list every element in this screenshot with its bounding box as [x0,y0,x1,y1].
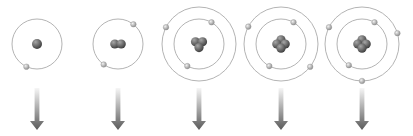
nucleon [194,43,203,52]
nucleon [117,39,126,48]
atom-5 [325,7,400,84]
bohr-model-diagram [0,0,413,136]
electron [307,64,313,70]
electron [246,24,252,30]
arrows-layer [30,88,369,130]
atom-1 [12,19,62,70]
down-arrow-icon [192,88,206,130]
down-arrow-icon [355,88,369,130]
atom-2 [93,19,143,69]
electron [101,62,107,68]
electron [267,63,273,69]
electron [185,63,191,69]
electron [326,24,332,30]
nucleus [110,39,126,48]
electron [346,62,352,68]
nucleon [276,44,285,53]
electron [359,78,365,84]
atom-4 [244,7,318,81]
electron [131,22,137,28]
electron [395,30,401,36]
nucleus [272,35,290,53]
atoms-layer [12,7,400,84]
electron [163,24,169,30]
atom-3 [162,7,236,81]
nucleus [353,35,371,53]
electron [291,20,297,26]
electron [24,64,30,70]
down-arrow-icon [111,88,125,130]
diagram-canvas [0,0,413,136]
nucleon [357,44,366,53]
down-arrow-icon [30,88,44,130]
electron [209,20,215,26]
nucleon [32,39,42,49]
nucleus [191,37,207,52]
electron [372,20,378,26]
nucleus [32,39,42,49]
down-arrow-icon [274,88,288,130]
